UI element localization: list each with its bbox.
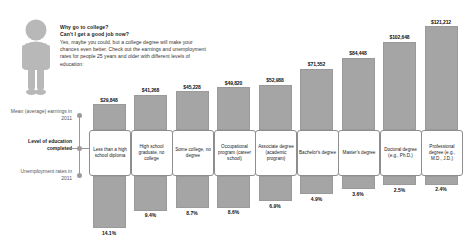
axis-label-education-level: Level of education completed <box>10 138 72 151</box>
unemployment-value-label: 9.4% <box>130 212 172 218</box>
earnings-bar <box>93 104 126 130</box>
earnings-value-label: $49,820 <box>213 80 255 86</box>
earnings-value-label: $84,448 <box>337 50 379 56</box>
unemployment-bar <box>217 176 250 208</box>
unemployment-group: 14.1% <box>88 176 130 236</box>
earnings-bar <box>425 26 458 130</box>
earnings-value-label: $41,268 <box>130 87 172 93</box>
axis-label-unemployment: Unemployment rates in 2011 <box>10 168 72 181</box>
unemployment-bar <box>425 176 458 185</box>
unemployment-bar <box>259 176 292 201</box>
earnings-value-label: $121,212 <box>420 19 462 25</box>
earnings-group: $71,552 <box>296 61 338 130</box>
education-level-box[interactable]: Some college, no degree <box>172 130 214 176</box>
earnings-bar <box>176 91 209 130</box>
unemployment-bar <box>300 176 333 194</box>
unemployment-value-label: 8.6% <box>213 209 255 215</box>
unemployment-group: 8.6% <box>213 176 255 215</box>
unemployment-value-label: 14.1% <box>88 230 130 236</box>
education-level-box[interactable]: Less than a high school diploma <box>89 130 131 176</box>
chart-column: $29,848Less than a high school diploma14… <box>88 8 130 244</box>
unemployment-value-label: 6.9% <box>254 203 296 209</box>
unemployment-value-label: 2.5% <box>379 187 421 193</box>
chart-column: $121,212Professional degree (e.g., M.D.,… <box>420 8 462 244</box>
unemployment-bar <box>383 176 416 185</box>
earnings-value-label: $71,552 <box>296 61 338 67</box>
earnings-value-label: $52,988 <box>254 77 296 83</box>
education-level-box[interactable]: Bachelor's degree <box>297 130 339 176</box>
unemployment-bar <box>93 176 126 228</box>
unemployment-group: 2.5% <box>379 176 421 193</box>
chart-column: $41,268High school graduate, no college9… <box>130 8 172 244</box>
education-level-label: Master's degree <box>342 150 377 156</box>
chart-column: $71,552Bachelor's degree4.9% <box>296 8 338 244</box>
earnings-bar <box>259 85 292 130</box>
education-level-box[interactable]: Master's degree <box>338 130 380 176</box>
unemployment-value-label: 4.9% <box>296 196 338 202</box>
earnings-group: $49,820 <box>213 80 255 130</box>
education-earnings-infographic: Why go to college? Can't I get a good jo… <box>0 0 469 250</box>
axis-label-earnings: Mean (average) earnings in 2011 <box>10 108 72 121</box>
earnings-bar <box>217 87 250 130</box>
unemployment-bar <box>342 176 375 189</box>
unemployment-group: 6.9% <box>254 176 296 209</box>
education-level-box[interactable]: Occupational program (career school) <box>214 130 256 176</box>
earnings-group: $84,448 <box>337 50 379 130</box>
person-icon <box>16 18 56 96</box>
earnings-group: $102,648 <box>379 34 421 130</box>
axis-rail-vertical <box>79 115 80 176</box>
earnings-group: $52,988 <box>254 77 296 130</box>
education-level-label: Less than a high school diploma <box>90 147 130 159</box>
unemployment-group: 4.9% <box>296 176 338 202</box>
education-level-box[interactable]: High school graduate, no college <box>131 130 173 176</box>
axis-rail-left <box>70 148 82 149</box>
education-level-label: Professional degree (e.g., M.D., J.D.) <box>422 144 462 163</box>
education-level-label: High school graduate, no college <box>132 144 172 163</box>
earnings-value-label: $102,648 <box>379 34 421 40</box>
earnings-value-label: $45,228 <box>171 84 213 90</box>
education-level-label: Occupational program (career school) <box>215 144 255 163</box>
chart-plot-area: $29,848Less than a high school diploma14… <box>88 8 464 244</box>
chart-column: $45,228Some college, no degree8.7% <box>171 8 213 244</box>
unemployment-bar <box>134 176 167 211</box>
earnings-bar <box>300 69 333 130</box>
unemployment-group: 2.4% <box>420 176 462 192</box>
unemployment-bar <box>176 176 209 208</box>
education-level-label: Doctoral degree (e.g., Ph.D.) <box>381 147 421 159</box>
education-level-label: Some college, no degree <box>173 147 213 159</box>
earnings-group: $41,268 <box>130 87 172 130</box>
chart-column: $102,648Doctoral degree (e.g., Ph.D.)2.5… <box>379 8 421 244</box>
unemployment-group: 8.7% <box>171 176 213 216</box>
unemployment-group: 3.6% <box>337 176 379 197</box>
chart-column: $52,988Associate degree (academic progra… <box>254 8 296 244</box>
education-level-label: Associate degree (academic program) <box>256 144 296 163</box>
earnings-value-label: $29,848 <box>88 97 130 103</box>
chart-column: $49,820Occupational program (career scho… <box>213 8 255 244</box>
unemployment-value-label: 2.4% <box>420 186 462 192</box>
education-level-box[interactable]: Professional degree (e.g., M.D., J.D.) <box>421 130 463 176</box>
education-level-box[interactable]: Associate degree (academic program) <box>255 130 297 176</box>
earnings-group: $121,212 <box>420 19 462 131</box>
earnings-bar <box>134 95 167 130</box>
earnings-bar <box>383 42 416 130</box>
unemployment-value-label: 8.7% <box>171 210 213 216</box>
chart-column: $84,448Master's degree3.6% <box>337 8 379 244</box>
education-level-box[interactable]: Doctoral degree (e.g., Ph.D.) <box>380 130 422 176</box>
unemployment-value-label: 3.6% <box>337 191 379 197</box>
earnings-group: $45,228 <box>171 84 213 130</box>
earnings-bar <box>342 58 375 130</box>
earnings-group: $29,848 <box>88 97 130 130</box>
unemployment-group: 9.4% <box>130 176 172 218</box>
education-level-label: Bachelor's degree <box>298 150 337 156</box>
